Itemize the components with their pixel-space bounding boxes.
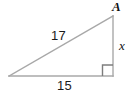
geometry-figure: A 17 x 15	[0, 0, 136, 97]
right-angle-marker-icon	[103, 65, 114, 76]
side-label-base: 15	[57, 79, 72, 92]
side-label-hypotenuse: 17	[51, 29, 66, 42]
vertex-label-a: A	[112, 0, 121, 13]
side-label-vertical-leg: x	[119, 39, 125, 52]
triangle-side-hypotenuse	[9, 16, 113, 76]
